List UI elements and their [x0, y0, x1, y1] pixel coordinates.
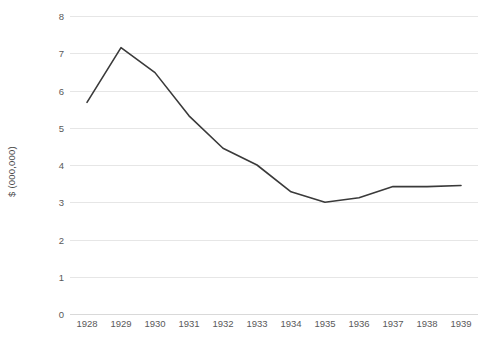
y-axis-title: $ (000,000) [0, 0, 22, 343]
x-tick-label: 1929 [110, 318, 131, 329]
x-tick-label: 1934 [280, 318, 301, 329]
y-axis-tick-labels: 012345678 [28, 16, 64, 314]
y-tick-label: 3 [34, 197, 64, 208]
line-chart: $ (000,000) 012345678 192819291930193119… [0, 0, 492, 343]
x-tick-label: 1938 [416, 318, 437, 329]
y-tick-label: 0 [34, 309, 64, 320]
y-tick-label: 4 [34, 160, 64, 171]
x-axis-tick-labels: 1928192919301931193219331934193519361937… [70, 318, 478, 338]
x-tick-label: 1935 [314, 318, 335, 329]
x-tick-label: 1930 [144, 318, 165, 329]
x-tick-label: 1933 [246, 318, 267, 329]
x-tick-label: 1932 [212, 318, 233, 329]
gridline [70, 314, 478, 315]
y-tick-label: 1 [34, 271, 64, 282]
y-tick-label: 6 [34, 85, 64, 96]
plot-area [70, 16, 478, 314]
y-tick-label: 2 [34, 234, 64, 245]
x-tick-label: 1936 [348, 318, 369, 329]
x-tick-label: 1928 [76, 318, 97, 329]
y-tick-label: 5 [34, 122, 64, 133]
series-polyline [87, 48, 461, 203]
y-tick-label: 7 [34, 48, 64, 59]
x-tick-label: 1939 [450, 318, 471, 329]
x-tick-label: 1937 [382, 318, 403, 329]
x-tick-label: 1931 [178, 318, 199, 329]
y-tick-label: 8 [34, 11, 64, 22]
series-line [70, 16, 478, 314]
